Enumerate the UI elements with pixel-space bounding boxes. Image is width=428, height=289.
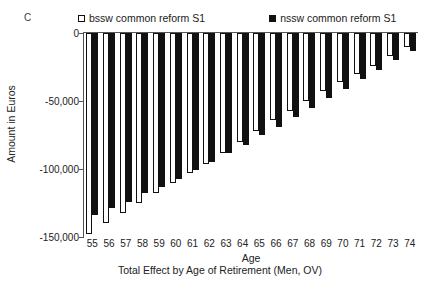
x-axis-tick-label: 62 [201, 238, 218, 252]
x-axis-title: Age [84, 252, 418, 264]
bar-groups [84, 33, 418, 237]
bar-nssw-age-58 [142, 33, 148, 193]
x-axis-tick-label: 66 [268, 238, 285, 252]
y-axis-title: Amount in Euros [5, 39, 17, 209]
bar-nssw-age-62 [209, 33, 215, 162]
bar-nssw-age-64 [243, 33, 249, 145]
bar-nssw-age-55 [92, 33, 98, 215]
bar-group [101, 33, 118, 237]
legend-swatch-open-square-icon [78, 15, 85, 22]
bar-nssw-age-67 [293, 33, 299, 117]
bar-nssw-age-73 [393, 33, 399, 60]
bar-nssw-age-68 [309, 33, 315, 108]
bar-nssw-age-57 [126, 33, 132, 202]
bar-nssw-age-63 [226, 33, 232, 153]
y-axis-tick-label: -100,000 [40, 164, 79, 175]
bar-group [251, 33, 268, 237]
bar-nssw-age-66 [276, 33, 282, 127]
bar-nssw-age-70 [343, 33, 349, 89]
x-axis-tick-label: 56 [101, 238, 118, 252]
bar-group [318, 33, 335, 237]
x-axis-tick-label: 67 [284, 238, 301, 252]
bar-group [117, 33, 134, 237]
x-axis-tick-label: 64 [234, 238, 251, 252]
bar-group [351, 33, 368, 237]
bar-nssw-age-74 [410, 33, 416, 51]
bar-group [134, 33, 151, 237]
x-axis-tick-label: 63 [218, 238, 235, 252]
bar-group [84, 33, 101, 237]
legend-swatch-filled-square-icon [269, 15, 276, 22]
bar-group [284, 33, 301, 237]
bar-nssw-age-59 [159, 33, 165, 187]
bar-group [385, 33, 402, 237]
x-axis-tick-label: 70 [335, 238, 352, 252]
x-axis-tick-label: 61 [184, 238, 201, 252]
x-axis-ticks: 5556575859606162636465666768697071727374 [84, 238, 418, 252]
y-axis-tick-label: -150,000 [40, 232, 79, 243]
x-axis-tick-label: 71 [351, 238, 368, 252]
bar-group [401, 33, 418, 237]
bar-group [301, 33, 318, 237]
bar-group [218, 33, 235, 237]
plot-area [84, 33, 418, 237]
bar-group [151, 33, 168, 237]
bar-nssw-age-71 [360, 33, 366, 79]
x-axis-tick-label: 69 [318, 238, 335, 252]
legend-label-nssw: nssw common reform S1 [280, 12, 396, 24]
bar-nssw-age-56 [109, 33, 115, 208]
bar-group [184, 33, 201, 237]
legend: bssw common reform S1 nssw common reform… [70, 10, 410, 26]
bar-nssw-age-65 [259, 33, 265, 135]
bar-group [234, 33, 251, 237]
y-axis-tick-label: -50,000 [45, 96, 79, 107]
bar-nssw-age-61 [193, 33, 199, 170]
x-axis-tick-label: 58 [134, 238, 151, 252]
x-axis-tick-label: 68 [301, 238, 318, 252]
x-axis-tick-label: 65 [251, 238, 268, 252]
x-axis-tick-label: 74 [401, 238, 418, 252]
bar-nssw-age-72 [376, 33, 382, 70]
bar-group [201, 33, 218, 237]
bar-group [335, 33, 352, 237]
bar-nssw-age-69 [326, 33, 332, 98]
legend-entry-bssw: bssw common reform S1 [78, 12, 205, 24]
x-axis-tick-label: 72 [368, 238, 385, 252]
bar-group [168, 33, 185, 237]
bar-group [368, 33, 385, 237]
legend-label-bssw: bssw common reform S1 [89, 12, 205, 24]
x-axis-tick-label: 60 [168, 238, 185, 252]
x-axis-tick-label: 73 [385, 238, 402, 252]
chart-subtitle: Total Effect by Age of Retirement (Men, … [30, 264, 410, 276]
x-axis-tick-label: 57 [117, 238, 134, 252]
x-axis-tick-label: 59 [151, 238, 168, 252]
legend-entry-nssw: nssw common reform S1 [269, 12, 396, 24]
x-axis-tick-label: 55 [84, 238, 101, 252]
bar-nssw-age-60 [176, 33, 182, 179]
bar-group [268, 33, 285, 237]
